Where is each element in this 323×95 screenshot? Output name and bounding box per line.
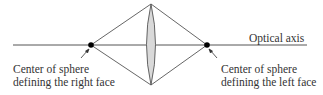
left-center-dot — [88, 42, 94, 48]
left-center-label-line1: Center of sphere — [13, 63, 89, 75]
right-center-label-line2: defining the left face — [221, 76, 316, 88]
optical-axis-label: Optical axis — [249, 32, 304, 44]
right-center-dot — [204, 42, 210, 48]
left-center-label-line2: defining the right face — [13, 76, 115, 88]
biconvex-lens — [147, 4, 156, 85]
right-center-label-line1: Center of sphere — [221, 63, 297, 75]
